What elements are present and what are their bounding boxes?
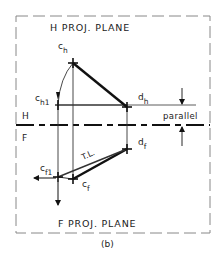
h-plane-label: H <box>22 111 29 121</box>
f-plane-title: F PROJ. PLANE <box>58 218 136 229</box>
label-d-f: df <box>138 137 147 151</box>
rotation-arc <box>58 63 73 104</box>
figure-caption: (b) <box>101 239 114 249</box>
label-c-f1: cf1 <box>40 163 53 177</box>
point-markers <box>53 58 132 184</box>
label-c-h1: ch1 <box>35 93 50 107</box>
orthographic-projection-diagram: H PROJ. PLANE F PROJ. PLANE H F parallel… <box>0 0 221 263</box>
h-plane-title: H PROJ. PLANE <box>50 22 130 33</box>
line-ch-dh <box>73 63 127 107</box>
arc-arrowhead-icon <box>56 92 60 100</box>
label-c-f: cf <box>82 179 90 193</box>
parallel-label: parallel <box>163 111 198 121</box>
label-d-h: dh <box>138 92 149 106</box>
true-length-label: T.L. <box>79 148 96 162</box>
label-c-h: ch <box>58 41 68 55</box>
f-plane-label: F <box>22 133 27 143</box>
